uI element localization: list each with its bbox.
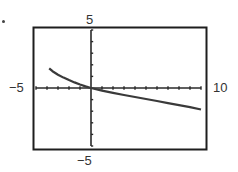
function-curve <box>49 68 201 109</box>
axes <box>36 30 201 146</box>
graph-window <box>0 0 238 172</box>
